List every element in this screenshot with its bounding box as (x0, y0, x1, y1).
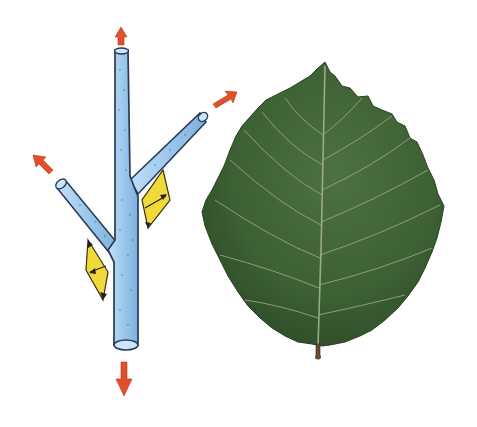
arrow-down-icon (116, 362, 132, 396)
twig (54, 48, 210, 350)
leaf-petiole (316, 344, 320, 356)
illustration (0, 0, 477, 427)
arrow-upper-left-icon (33, 155, 53, 174)
bud-scale-lower (86, 240, 108, 300)
main-stem (108, 50, 138, 345)
arrow-up-icon (115, 27, 127, 45)
leaf (202, 62, 444, 360)
right-branch (130, 113, 206, 194)
arrow-upper-right-icon (213, 91, 237, 108)
leaf-blade (202, 62, 444, 346)
